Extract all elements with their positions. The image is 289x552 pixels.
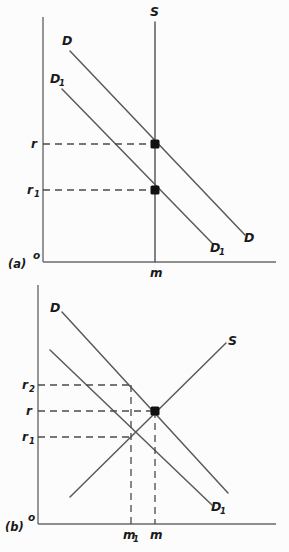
panel-a-y-tick-r1-sub: 1: [34, 189, 40, 199]
panel-b-origin-label: o: [28, 511, 35, 523]
panel-b-x-tick-m: m: [150, 528, 163, 542]
panel-a-demand-curve-d1: [62, 89, 212, 243]
panel-a-label-d-bottom: D: [244, 230, 254, 245]
panel-b-y-tick-r2-base: r: [22, 378, 29, 392]
panel-b-y-tick-r: r: [26, 404, 33, 418]
panel-a-label-s: S: [150, 4, 159, 19]
panel-b-x-tick-m1-sub: 1: [133, 534, 139, 544]
panel-a-label-d1-top: D 1: [50, 71, 65, 88]
panel-b-y-tick-r2-sub: 2: [29, 384, 35, 394]
panel-b-y-tick-r1: r 1: [22, 430, 35, 446]
panel-b-x-tick-m1: m 1: [123, 528, 139, 544]
panel-a-y-tick-r1: r 1: [27, 183, 40, 199]
panel-a-y-tick-r: r: [31, 137, 38, 151]
panel-a-label-d-top: D: [62, 33, 72, 48]
panel-a-x-tick-m: m: [150, 266, 163, 280]
economics-supply-demand-figure: S D D D 1 D 1 r r 1 m o (a): [0, 0, 289, 552]
panel-b-equilibrium-dot: [151, 407, 160, 416]
panel-a-label-d1-top-sub: 1: [59, 78, 65, 88]
panel-a-y-tick-r1-base: r: [27, 183, 34, 197]
panel-b-y-tick-r1-sub: 1: [29, 436, 35, 446]
panel-a-equilibrium-dot-r1: [151, 186, 160, 195]
panel-a-label-d1-bottom: D 1: [210, 240, 225, 257]
panel-b-label-d: D: [50, 300, 60, 315]
panel-a: S D D D 1 D 1 r r 1 m o (a): [8, 4, 276, 280]
panel-b-label-s: S: [228, 333, 237, 348]
panel-b-y-tick-r1-base: r: [22, 430, 29, 444]
panel-b-demand-curve-d: [62, 312, 228, 493]
panel-a-origin-label: o: [33, 249, 40, 261]
panel-b: D S D 1 r 2 r r 1 m 1 m o (b): [5, 285, 276, 544]
figure-page: S D D D 1 D 1 r r 1 m o (a): [0, 0, 289, 552]
panel-b-supply-curve-s: [70, 343, 226, 497]
panel-a-label-d1-bottom-sub: 1: [219, 247, 225, 257]
panel-b-label-d1: D 1: [211, 499, 226, 516]
panel-b-label-d1-sub: 1: [220, 506, 226, 516]
panel-b-y-tick-r2: r 2: [22, 378, 35, 394]
panel-b-caption: (b): [5, 520, 24, 534]
panel-a-caption: (a): [8, 257, 26, 271]
panel-a-equilibrium-dot-r: [151, 140, 160, 149]
